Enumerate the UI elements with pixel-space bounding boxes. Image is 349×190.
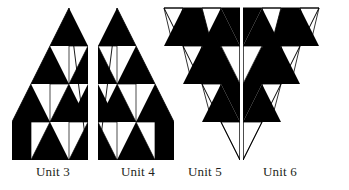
unit-3-svg: [12, 0, 88, 160]
cell-r3-c1-up-filled: [12, 84, 50, 122]
cell-r1-c1-up-filled: [50, 8, 88, 46]
unit-5-shape: [158, 0, 240, 160]
cell-r1-c1-up-filled: [98, 8, 136, 46]
triangle-units-figure: Unit 3 Unit 4 Unit 5 Unit 6: [0, 0, 349, 190]
cell-r4-c1-block-filled: [12, 122, 31, 160]
unit-6-svg: [243, 0, 325, 160]
unit-5-svg: [158, 0, 240, 160]
unit-3-shape: [12, 0, 88, 160]
unit-3-label: Unit 3: [8, 164, 98, 180]
unit-6-shape: [243, 0, 325, 160]
cell-r2-c1-up-filled: [117, 46, 155, 84]
cell-r2-c1-up-filled: [31, 46, 69, 84]
unit-6-label: Unit 6: [235, 164, 325, 180]
